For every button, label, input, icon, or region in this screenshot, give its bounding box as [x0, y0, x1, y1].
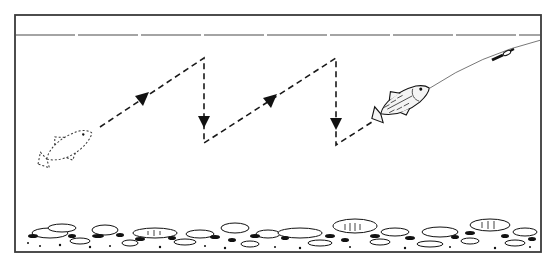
arrow-up-right-icon	[263, 94, 277, 108]
jigging-diagram: Jigging retrieve: lure follows a sawtoot…	[0, 0, 557, 267]
diagram-frame	[15, 15, 541, 252]
arrow-down-icon	[330, 118, 342, 130]
lure-fish-icon	[365, 75, 436, 130]
rocky-bottom	[17, 219, 539, 250]
arrow-up-right-icon	[135, 92, 149, 106]
fishing-line	[430, 40, 541, 88]
illustration-canvas	[0, 0, 557, 267]
arrow-down-icon	[198, 116, 210, 128]
ghost-fish-icon	[31, 120, 99, 176]
